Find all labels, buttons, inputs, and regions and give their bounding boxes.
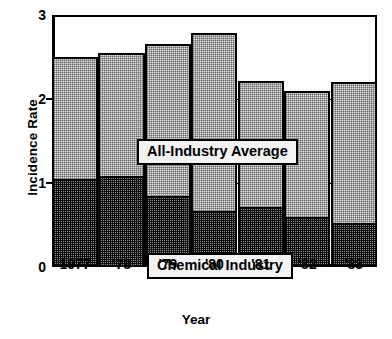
x-tick-label-81: '81: [238, 256, 284, 272]
bar-chemical-78: [98, 176, 144, 267]
series-label-all-industry: All-Industry Average: [137, 139, 298, 165]
y-tick-label-3: 3: [38, 8, 46, 22]
plot-area: 3 2 1 0 All-Industry Average Chemical In…: [52, 15, 377, 267]
x-tick-label-1977: 1977: [52, 256, 98, 272]
x-tick-label-80: '80: [191, 256, 237, 272]
x-tick-label-78: '78: [98, 256, 144, 272]
y-axis-title: Incidence Rate: [25, 53, 40, 243]
x-tick-label-83: '83: [331, 256, 377, 272]
bar-chemical-1977: [52, 179, 98, 267]
y-tick-label-0: 0: [38, 260, 46, 274]
x-tick-label-79: '79: [145, 256, 191, 272]
x-axis-title: Year: [0, 312, 392, 327]
bar-group: [52, 15, 98, 267]
incidence-rate-bar-chart: Incidence Rate 3 2 1 0 All-Industry Aver…: [0, 0, 392, 339]
bar-group: [331, 15, 377, 267]
y-tick-label-2: 2: [38, 92, 46, 106]
x-tick-label-82: '82: [284, 256, 330, 272]
y-tick-label-1: 1: [38, 176, 46, 190]
